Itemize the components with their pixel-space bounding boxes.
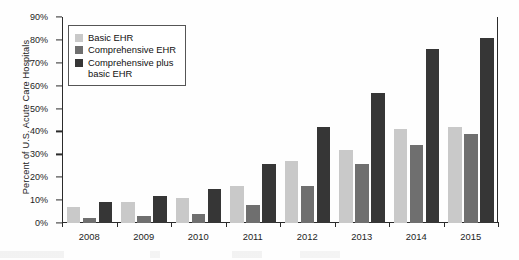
bar-2013-series1 <box>355 164 369 224</box>
x-axis-tick-mark <box>498 222 499 227</box>
bar-2014-series0 <box>394 129 408 223</box>
y-axis-tick-label: 20% <box>30 172 48 182</box>
scan-artifact <box>0 251 519 258</box>
y-axis-tick-label: 50% <box>30 104 48 114</box>
bar-2013-series0 <box>339 150 353 223</box>
y-axis-tick-label: 70% <box>30 58 48 68</box>
x-axis-tick-mark <box>280 222 281 227</box>
bar-2012-series1 <box>301 186 315 223</box>
y-axis-tick-label: 80% <box>30 35 48 45</box>
bar-2011-series0 <box>230 186 244 223</box>
chart-legend: Basic EHRComprehensive EHRComprehensive … <box>68 25 186 86</box>
x-axis-tick-mark <box>226 222 227 227</box>
chart-figure: Percent of U.S. Acute Care Hospitals 0%1… <box>0 0 519 260</box>
y-axis-tick-label: 60% <box>30 81 48 91</box>
legend-swatch-icon <box>75 34 83 42</box>
x-axis-tick-label: 2012 <box>297 231 318 242</box>
legend-item-2: Comprehensive plus basic EHR <box>75 57 176 79</box>
legend-swatch-icon <box>75 59 83 67</box>
x-axis-tick-label: 2008 <box>79 231 100 242</box>
bar-2010-series2 <box>208 189 222 223</box>
bar-2015-series1 <box>464 134 478 223</box>
y-axis-tick-label: 90% <box>30 12 48 22</box>
x-axis-tick-mark <box>389 222 390 227</box>
bar-2009-series1 <box>137 216 151 223</box>
y-axis-tick-label: 40% <box>30 126 48 136</box>
x-axis-tick-mark <box>117 222 118 227</box>
bar-2010-series1 <box>192 214 206 223</box>
legend-label: Basic EHR <box>88 32 133 43</box>
x-axis-tick-label: 2009 <box>133 231 154 242</box>
bar-2012-series0 <box>285 161 299 223</box>
bar-2008-series2 <box>99 202 113 223</box>
bar-2011-series1 <box>246 205 260 223</box>
x-axis-tick-mark <box>444 222 445 227</box>
y-axis-tick-label: 0% <box>35 218 48 228</box>
bar-2015-series0 <box>448 127 462 223</box>
x-axis-tick-mark <box>62 222 63 227</box>
x-axis-tick-label: 2015 <box>460 231 481 242</box>
y-axis-tick-label: 10% <box>30 195 48 205</box>
bar-2009-series0 <box>121 202 135 223</box>
x-axis-tick-mark <box>171 222 172 227</box>
bar-2012-series2 <box>317 127 331 223</box>
legend-item-1: Comprehensive EHR <box>75 44 176 55</box>
x-axis-tick-label: 2011 <box>243 231 263 242</box>
legend-label: Comprehensive EHR <box>88 44 176 55</box>
bar-2013-series2 <box>371 93 385 223</box>
bar-2011-series2 <box>262 164 276 224</box>
bar-2008-series1 <box>83 218 97 223</box>
y-axis-tick-label: 30% <box>30 149 48 159</box>
bar-2010-series0 <box>176 198 190 223</box>
bar-2014-series2 <box>426 49 440 223</box>
bar-2015-series2 <box>480 38 494 223</box>
legend-swatch-icon <box>75 46 83 54</box>
bar-2009-series2 <box>153 196 167 223</box>
y-axis-tick-group: 0%10%20%30%40%50%60%70%80%90% <box>0 0 58 240</box>
x-axis-tick-label: 2013 <box>351 231 372 242</box>
legend-label: Comprehensive plus basic EHR <box>88 57 173 79</box>
bar-2014-series1 <box>410 145 424 223</box>
x-axis-tick-label: 2010 <box>188 231 209 242</box>
x-axis-tick-label: 2014 <box>406 231 427 242</box>
x-axis-tick-mark <box>335 222 336 227</box>
legend-item-0: Basic EHR <box>75 32 176 43</box>
bar-2008-series0 <box>67 207 81 223</box>
